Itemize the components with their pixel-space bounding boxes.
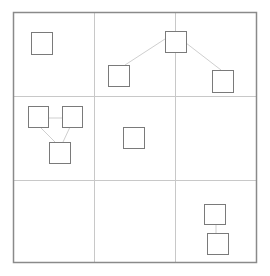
node-box-n2 — [166, 32, 187, 53]
grid-diagram — [0, 0, 270, 276]
node-box-n6 — [63, 107, 83, 128]
node-box-n10 — [208, 234, 229, 255]
node-box-n8 — [124, 128, 145, 149]
node-box-n5 — [29, 107, 49, 128]
connector-n2-n3 — [125, 39, 165, 65]
node-box-n1 — [32, 33, 53, 55]
connector-n5-n7 — [40, 127, 55, 142]
node-box-n7 — [50, 143, 71, 164]
diagram-canvas — [0, 0, 270, 276]
node-box-n9 — [205, 205, 226, 225]
node-box-n3 — [109, 66, 130, 87]
connector-n2-n4 — [186, 43, 221, 70]
connector-n6-n7 — [63, 127, 70, 142]
node-box-n4 — [213, 71, 234, 93]
